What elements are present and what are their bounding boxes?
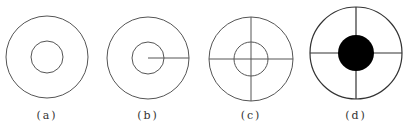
label-c: (c) xyxy=(241,109,262,122)
figure-a xyxy=(6,16,88,98)
figure-c xyxy=(209,17,293,101)
label-a: (a) xyxy=(36,109,57,122)
figure-b xyxy=(107,17,189,99)
figure-d xyxy=(310,7,402,99)
diagram-canvas: (a) (b) (c) (d) xyxy=(0,0,407,132)
label-b: (b) xyxy=(137,109,159,122)
label-d: (d) xyxy=(345,109,367,122)
